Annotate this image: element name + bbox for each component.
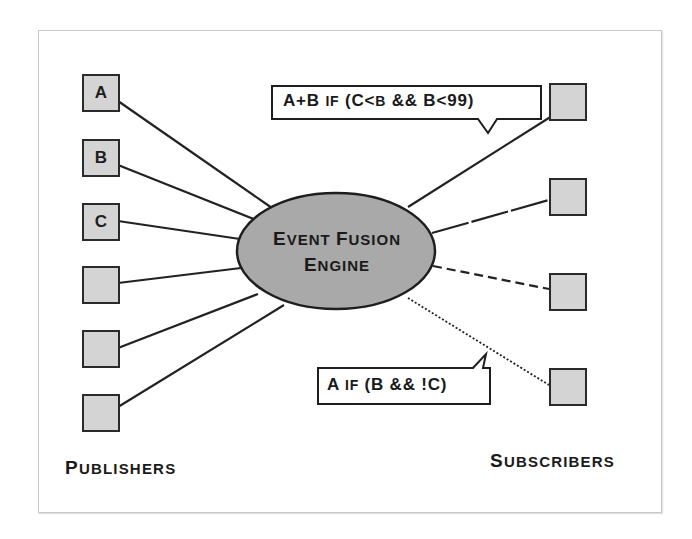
publisher-box-b[interactable]: B	[82, 139, 120, 177]
subscribers-heading: SUBSCRIBERS	[490, 450, 615, 472]
publisher-c-label: C	[95, 212, 107, 232]
engine-label-line-2: ENGINE	[246, 252, 428, 278]
subscriber-box-2[interactable]	[549, 178, 587, 216]
subscriber-3-connection	[433, 266, 549, 289]
publisher-a-connection	[118, 101, 272, 208]
publisher-b-connection	[118, 165, 256, 220]
publisher-c-connection	[118, 221, 240, 239]
publisher-5-connection	[118, 294, 258, 348]
publisher-4-connection	[118, 268, 241, 283]
publisher-a-label: A	[95, 83, 107, 103]
publisher-box-c[interactable]: C	[82, 203, 120, 241]
publisher-box-5[interactable]	[82, 330, 120, 368]
subscriber-1-connection	[408, 116, 552, 207]
subscriber-2-connection	[432, 200, 549, 233]
subscriber-box-3[interactable]	[549, 273, 587, 311]
subscriber-box-1[interactable]	[549, 83, 587, 121]
publisher-box-6[interactable]	[82, 394, 120, 432]
publishers-heading: PUBLISHERS	[65, 457, 176, 479]
callout-1-text: A+B IF (C<B && B<99)	[283, 91, 474, 111]
engine-label-line-1: EVENT FUSION	[246, 226, 428, 252]
callout-2-text: A IF (B && !C)	[327, 375, 447, 395]
publisher-box-4[interactable]	[82, 266, 120, 304]
subscriber-box-4[interactable]	[549, 368, 587, 406]
engine-label: EVENT FUSION ENGINE	[246, 226, 428, 278]
publisher-box-a[interactable]: A	[82, 74, 120, 112]
publisher-b-label: B	[95, 148, 107, 168]
publisher-6-connection	[118, 305, 284, 407]
